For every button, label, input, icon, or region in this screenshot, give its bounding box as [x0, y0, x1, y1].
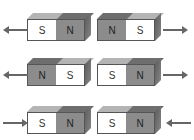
magnet-face: NS: [27, 64, 85, 86]
pole-north: N: [56, 20, 84, 40]
pole-south: S: [28, 20, 56, 40]
force-arrow-left-icon: [8, 74, 28, 76]
magnet-face: SN: [27, 19, 85, 41]
pole-north: N: [56, 113, 84, 133]
pole-north: N: [28, 65, 56, 85]
force-arrow-right-icon: [3, 122, 23, 124]
magnet-row: NSSN: [0, 58, 194, 88]
bar-magnet: NS: [27, 58, 91, 86]
bar-magnet: NS: [97, 13, 161, 41]
pole-north: N: [126, 113, 154, 133]
pole-north: N: [98, 20, 126, 40]
pole-south: S: [98, 113, 126, 133]
magnet-row: SNNS: [0, 13, 194, 43]
force-arrow-left-icon: [8, 29, 28, 31]
pole-south: S: [126, 20, 154, 40]
bar-magnet: SN: [27, 106, 91, 134]
magnet-face: SN: [27, 112, 85, 134]
magnet-row: SNSN: [0, 106, 194, 136]
pole-south: S: [28, 113, 56, 133]
magnet-face: SN: [97, 112, 155, 134]
pole-north: N: [126, 65, 154, 85]
magnet-face: NS: [97, 19, 155, 41]
pole-south: S: [98, 65, 126, 85]
bar-magnet: SN: [97, 106, 161, 134]
force-arrow-right-icon: [163, 29, 183, 31]
bar-magnet: SN: [27, 13, 91, 41]
pole-south: S: [56, 65, 84, 85]
force-arrow-left-icon: [171, 122, 191, 124]
force-arrow-right-icon: [163, 74, 183, 76]
magnet-face: SN: [97, 64, 155, 86]
bar-magnet: SN: [97, 58, 161, 86]
